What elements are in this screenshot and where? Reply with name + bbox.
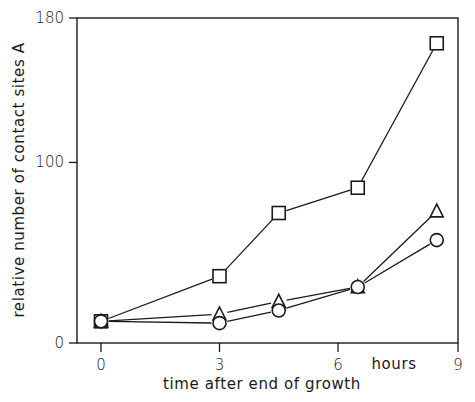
- series-segment: [227, 303, 271, 312]
- square-marker: [272, 207, 285, 220]
- circle-marker: [430, 234, 443, 247]
- y-axis-label: relative number of contact sites A: [10, 42, 28, 317]
- series-segment: [108, 279, 212, 318]
- series-layer: [95, 37, 444, 330]
- plot-border: [77, 18, 458, 343]
- series-circles: [95, 234, 444, 330]
- x-tick-label: 6: [333, 356, 343, 374]
- series-squares: [95, 37, 444, 328]
- y-tick-label: 100: [35, 153, 64, 171]
- x-tick-label: 0: [96, 356, 106, 374]
- square-marker: [351, 181, 364, 194]
- square-marker: [430, 37, 443, 50]
- triangle-marker: [430, 204, 443, 217]
- y-axis-ticks: 0100180: [35, 9, 77, 352]
- x-tick-label: 3: [215, 356, 225, 374]
- plot-frame: [77, 18, 458, 343]
- series-segment: [109, 321, 212, 323]
- line-chart: 0100180 0369 hours time after end of gro…: [0, 0, 475, 402]
- series-triangles: [95, 204, 444, 327]
- circle-marker: [272, 304, 285, 317]
- circle-marker: [213, 317, 226, 330]
- y-tick-label: 0: [54, 334, 64, 352]
- square-marker: [213, 270, 226, 283]
- series-segment: [225, 219, 273, 271]
- x-axis-label: time after end of growth: [163, 375, 361, 393]
- circle-marker: [95, 315, 108, 328]
- x-tick-label: 9: [453, 356, 463, 374]
- series-segment: [227, 312, 271, 321]
- series-segment: [286, 190, 350, 210]
- series-segment: [109, 315, 212, 321]
- x-unit-label: hours: [371, 355, 416, 373]
- circle-marker: [351, 281, 364, 294]
- series-segment: [362, 50, 433, 180]
- y-tick-label: 180: [35, 9, 64, 27]
